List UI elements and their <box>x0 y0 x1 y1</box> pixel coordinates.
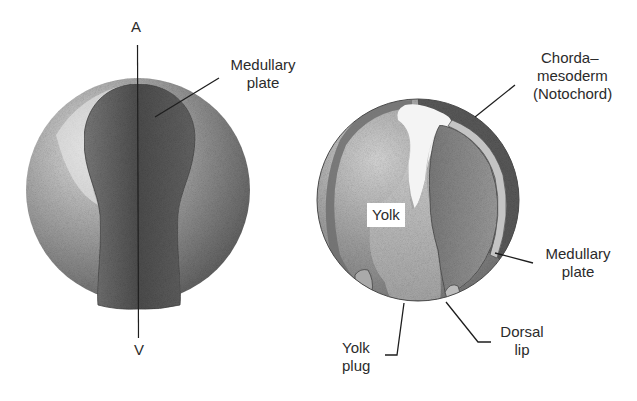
label-line: (Notochord) <box>533 85 612 103</box>
animal-pole-label: A <box>131 18 141 35</box>
label-line: plate <box>537 263 619 281</box>
left-embryo <box>26 45 250 338</box>
label-line: Medullary <box>222 56 304 74</box>
yolk-plug-label: Yolk plug <box>342 339 370 375</box>
chordamesoderm-label: Chorda– mesoderm (Notochord) <box>533 49 612 103</box>
label-line: mesoderm <box>533 67 612 85</box>
dorsal-lip-leader <box>446 302 491 342</box>
label-line: Medullary <box>537 245 619 263</box>
label-line: plate <box>222 74 304 92</box>
vegetal-pole-label: V <box>134 341 144 358</box>
label-line: Chorda– <box>533 49 612 67</box>
label-line: plug <box>342 357 370 375</box>
yolk-plug-leader <box>385 303 404 355</box>
yolk-label: Yolk <box>367 203 405 227</box>
left-medullary-plate-shape <box>84 84 195 309</box>
right-medullary-plate-label: Medullary plate <box>537 245 619 281</box>
left-medullary-plate-label: Medullary plate <box>222 56 304 92</box>
lateral-lip <box>355 270 373 296</box>
label-line: Yolk <box>342 339 370 357</box>
label-line: Dorsal <box>494 323 550 341</box>
chordamesoderm-leader <box>475 85 515 117</box>
dorsal-lip-label: Dorsal lip <box>494 323 550 359</box>
label-line: lip <box>494 341 550 359</box>
right-embryo <box>317 85 533 355</box>
